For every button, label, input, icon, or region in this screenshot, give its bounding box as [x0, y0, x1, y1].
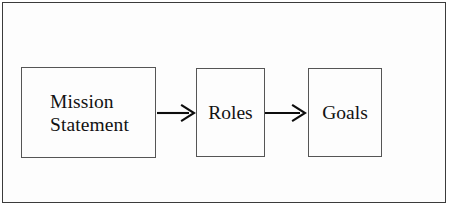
node-roles-label: Roles	[208, 101, 252, 124]
node-mission-statement-label: Mission Statement	[48, 90, 129, 136]
node-mission-statement: Mission Statement	[21, 67, 156, 158]
connector-mission-to-roles	[157, 103, 197, 123]
diagram-flow-row: Mission Statement Roles Goals	[19, 65, 384, 159]
node-goals: Goals	[308, 68, 382, 157]
node-goals-label: Goals	[322, 101, 368, 124]
connector-roles-to-goals	[265, 103, 309, 123]
node-roles: Roles	[196, 68, 265, 157]
diagram-figure: Mission Statement Roles Goals	[0, 0, 451, 215]
